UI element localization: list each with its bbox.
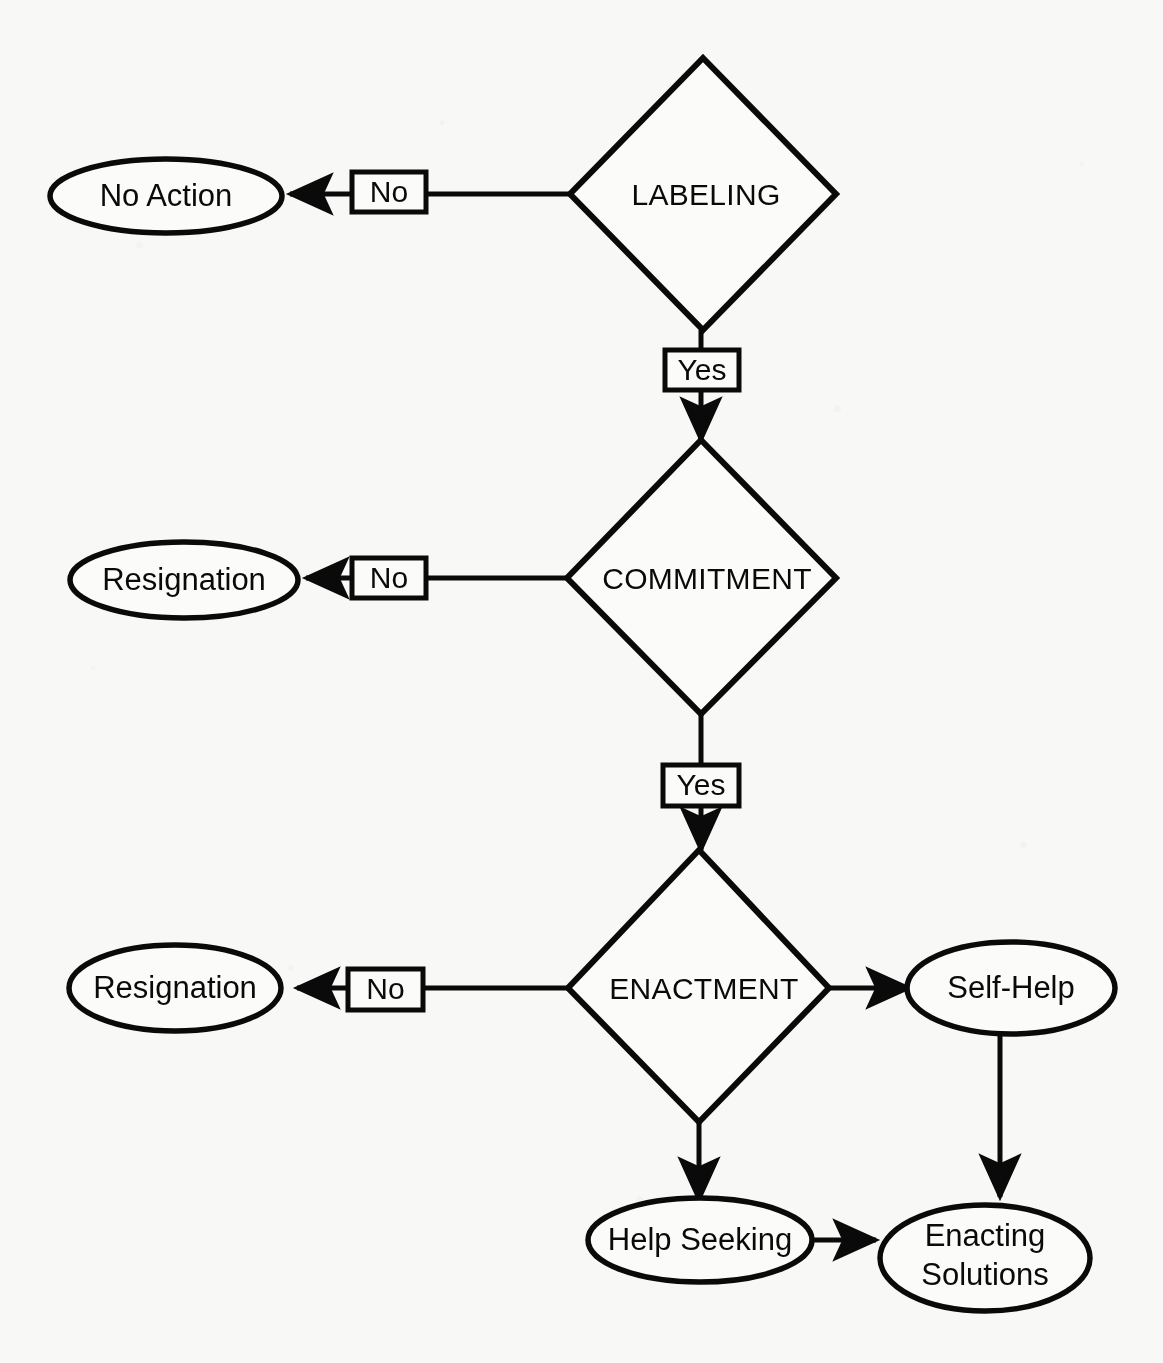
enacting-solutions-label-line1: Enacting [890,1219,1080,1254]
flowchart-page: LABELING No Action No Yes COMMITMENT Res… [0,0,1163,1363]
enactment-diamond-label: ENACTMENT [592,973,816,1005]
no-action-label: No Action [71,179,261,212]
self-help-label: Self-Help [916,971,1106,1004]
enacting-solutions-label-line2: Solutions [890,1258,1080,1293]
commitment-diamond-label: COMMITMENT [588,563,826,595]
labeling-diamond-label: LABELING [611,179,801,211]
enactment-no-edge-label: No [348,973,423,1005]
labeling-no-edge-label: No [352,176,426,208]
help-seeking-label: Help Seeking [605,1223,795,1256]
resignation-2-label: Resignation [80,971,270,1004]
labeling-yes-edge-label: Yes [665,354,739,386]
commitment-yes-edge-label: Yes [663,769,739,801]
commitment-no-edge-label: No [352,562,426,594]
resignation-1-label: Resignation [89,563,279,596]
